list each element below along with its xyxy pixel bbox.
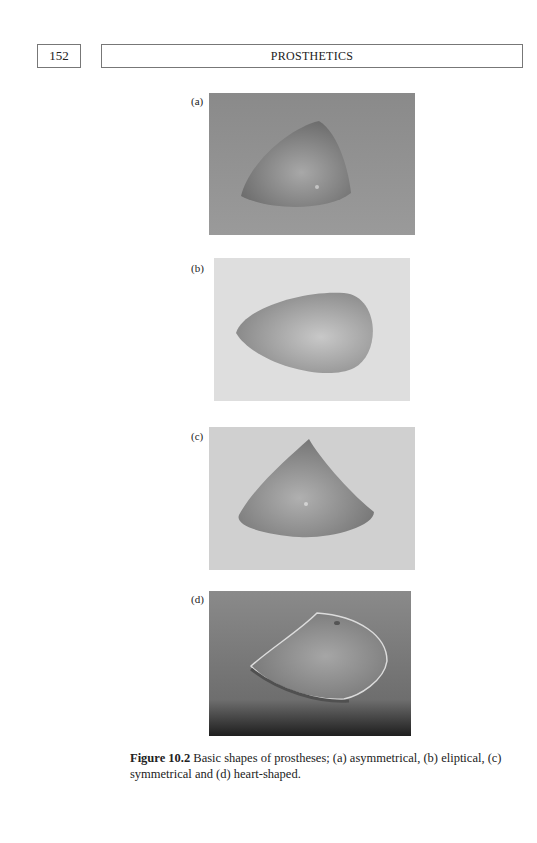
panel-label-c: (c) bbox=[191, 430, 203, 442]
photo-asymmetrical-prosthesis bbox=[209, 93, 415, 235]
photo-eliptical-prosthesis bbox=[214, 258, 410, 401]
panel-label-b: (b) bbox=[191, 262, 204, 274]
panel-label-a: (a) bbox=[191, 95, 203, 107]
photo-symmetrical-prosthesis bbox=[209, 427, 415, 570]
figure-number: Figure 10.2 bbox=[130, 751, 190, 765]
photo-heart-shaped-prosthesis bbox=[209, 591, 411, 736]
figure-caption: Figure 10.2 Basic shapes of prostheses; … bbox=[130, 750, 530, 782]
panel-label-d: (d) bbox=[191, 593, 204, 605]
running-header: PROSTHETICS bbox=[101, 44, 523, 68]
page-number: 152 bbox=[37, 44, 81, 68]
